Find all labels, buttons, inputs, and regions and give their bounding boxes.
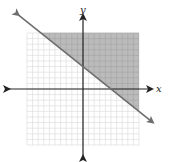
- x-axis-label: x: [156, 83, 162, 94]
- inequality-graph: x y: [0, 0, 169, 162]
- y-axis-label: y: [79, 4, 86, 15]
